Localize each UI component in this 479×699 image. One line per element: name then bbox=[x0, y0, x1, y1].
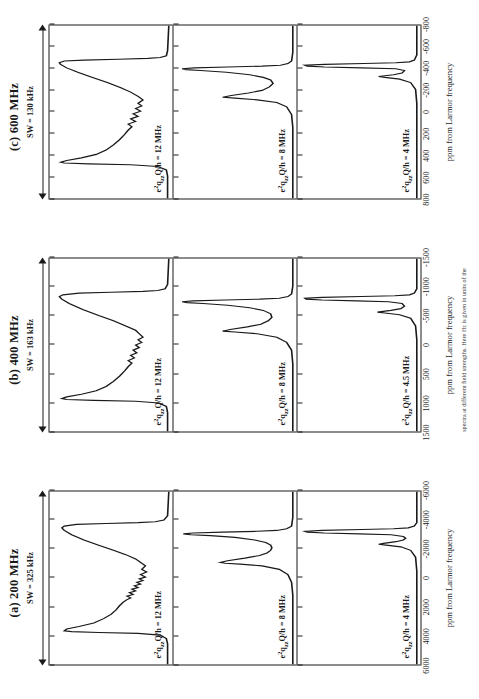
cq-rest: Q/h = 8 MHz bbox=[277, 362, 286, 408]
axis-tick-label: 600 bbox=[421, 171, 430, 183]
panel-b-sw-arrow bbox=[38, 257, 47, 432]
figure-rotation-wrapper: (a) 200 MHz SW = 325 kHz bbox=[0, 0, 479, 699]
panel-b-sub-12mhz: e2qzzQ/h = 12 MHz bbox=[48, 257, 172, 432]
panel-b-title: (b) 400 MHz bbox=[6, 233, 21, 466]
axis-tick bbox=[297, 23, 302, 24]
panel-c-sub1-cq-label: e2qzzQ/h = 12 MHz bbox=[151, 125, 164, 193]
cq-e: e bbox=[401, 654, 410, 658]
panel-b-axis-title: ppm from Larmor frequency bbox=[443, 257, 453, 432]
nmr-figure: (a) 200 MHz SW = 325 kHz bbox=[0, 0, 479, 699]
cq-e: e bbox=[153, 654, 162, 658]
cq-e: e bbox=[277, 654, 286, 658]
axis-tick-label: -4000 bbox=[421, 510, 430, 529]
panel-b-sub2-cq-label: e2qzzQ/h = 8 MHz bbox=[275, 362, 288, 425]
panel-b-sub3-cq-label: e2qzzQ/h = 4.5 MHz bbox=[399, 355, 412, 425]
cq-sub: zz bbox=[405, 408, 412, 414]
panel-a-sw-label: SW = 325 kHz bbox=[24, 490, 34, 665]
axis-tick-label: 1000 bbox=[421, 395, 430, 411]
panel-a-axis-title: ppm from Larmor frequency bbox=[443, 490, 453, 665]
panel-c-sw-label: SW = 130 kHz bbox=[24, 24, 34, 199]
panel-b-axis: 150010005000-500-1000-1500 bbox=[421, 257, 439, 432]
cq-sub: zz bbox=[281, 641, 288, 647]
panel-a-sweep-width: SW = 325 kHz bbox=[26, 490, 46, 665]
axis-tick bbox=[297, 489, 302, 490]
cq-sub: zz bbox=[405, 175, 412, 181]
axis-tick-label: -800 bbox=[421, 16, 430, 31]
axis-tick bbox=[173, 23, 178, 24]
axis-tick-label: 200 bbox=[421, 127, 430, 139]
axis-tick bbox=[49, 23, 54, 24]
axis-tick-label: 0 bbox=[421, 342, 430, 346]
cq-rest: Q/h = 12 MHz bbox=[153, 591, 162, 642]
panel-b-sub-8mhz: e2qzzQ/h = 8 MHz bbox=[172, 257, 296, 432]
cq-rest: Q/h = 12 MHz bbox=[153, 358, 162, 409]
panel-c-sub3-cq-label: e2qzzQ/h = 4 MHz bbox=[399, 129, 412, 192]
cq-rest: Q/h = 4 MHz bbox=[401, 129, 410, 175]
cq-sub: zz bbox=[157, 641, 164, 647]
cq-e: e bbox=[277, 188, 286, 192]
panel-a-sub-8mhz: e2qzzQ/h = 8 MHz bbox=[172, 490, 296, 665]
cq-e: e bbox=[401, 188, 410, 192]
axis-tick-label: 1500 bbox=[421, 424, 430, 440]
axis-tick-label: -400 bbox=[421, 60, 430, 75]
cq-sub: zz bbox=[157, 408, 164, 414]
panel-c-sweep-width: SW = 130 kHz bbox=[26, 24, 46, 199]
panel-a-axis: 6000400020000-2000-4000-6000 bbox=[421, 490, 439, 665]
axis-tick-label: -200 bbox=[421, 82, 430, 97]
axis-tick-label: 400 bbox=[421, 149, 430, 161]
panel-a-sub1-cq-label: e2qzzQ/h = 12 MHz bbox=[151, 591, 164, 659]
panel-a-sub2-cq-label: e2qzzQ/h = 8 MHz bbox=[275, 595, 288, 658]
panel-b-sweep-width: SW = 163 kHz bbox=[26, 257, 46, 432]
axis-tick-label: 6000 bbox=[421, 657, 430, 673]
axis-tick-label: -500 bbox=[421, 308, 430, 323]
panel-a-sub-4mhz: e2qzzQ/h = 4 MHz bbox=[296, 490, 421, 665]
panel-b-sub-45mhz: e2qzzQ/h = 4.5 MHz bbox=[296, 257, 421, 432]
panel-c-sub-4mhz: e2qzzQ/h = 4 MHz bbox=[296, 24, 421, 199]
panel-b-sub1-cq-label: e2qzzQ/h = 12 MHz bbox=[151, 358, 164, 426]
panel-a-sw-arrow bbox=[38, 490, 47, 665]
panel-row: (a) 200 MHz SW = 325 kHz bbox=[0, 0, 455, 699]
cq-e: e bbox=[401, 421, 410, 425]
panel-b-stack: e2qzzQ/h = 12 MHz e2qzzQ/h = 8 MHz bbox=[48, 257, 421, 432]
cq-e: e bbox=[153, 188, 162, 192]
panel-c-stack: e2qzzQ/h = 12 MHz e2qzzQ/h = 8 MHz bbox=[48, 24, 421, 199]
axis-tick bbox=[173, 489, 178, 490]
axis-tick-label: -1000 bbox=[421, 277, 430, 296]
cq-e: e bbox=[153, 421, 162, 425]
panel-c-axis-title: ppm from Larmor frequency bbox=[443, 24, 453, 199]
panel-c-axis: 8006004002000-200-400-600-800 bbox=[421, 24, 439, 199]
axis-tick bbox=[49, 256, 54, 257]
axis-tick bbox=[297, 256, 302, 257]
axis-tick-label: 2000 bbox=[421, 598, 430, 614]
panel-a-title: (a) 200 MHz bbox=[6, 466, 21, 699]
axis-tick-label: 500 bbox=[421, 368, 430, 380]
cq-rest: Q/h = 8 MHz bbox=[277, 595, 286, 641]
cq-sub: zz bbox=[157, 175, 164, 181]
panel-c-sub2-cq-label: e2qzzQ/h = 8 MHz bbox=[275, 129, 288, 192]
cq-rest: Q/h = 8 MHz bbox=[277, 129, 286, 175]
axis-tick bbox=[49, 489, 54, 490]
axis-tick-label: 800 bbox=[421, 193, 430, 205]
axis-tick-label: 0 bbox=[421, 575, 430, 579]
cq-sub: zz bbox=[281, 408, 288, 414]
axis-tick-label: 4000 bbox=[421, 628, 430, 644]
axis-tick-label: -2000 bbox=[421, 539, 430, 558]
cq-rest: Q/h = 12 MHz bbox=[153, 125, 162, 176]
panel-a-stack: e2qzzQ/h = 12 MHz e2qzzQ/h = 8 MHz bbox=[48, 490, 421, 665]
panel-c-sub-12mhz: e2qzzQ/h = 12 MHz bbox=[48, 24, 172, 199]
axis-tick-label: -1500 bbox=[421, 247, 430, 266]
axis-tick-label: 0 bbox=[421, 109, 430, 113]
axis-tick-label: -6000 bbox=[421, 480, 430, 499]
cq-rest: Q/h = 4 MHz bbox=[401, 595, 410, 641]
panel-b: (b) 400 MHz SW = 163 kHz bbox=[0, 233, 455, 466]
panel-a-sub3-cq-label: e2qzzQ/h = 4 MHz bbox=[399, 595, 412, 658]
cq-rest: Q/h = 4.5 MHz bbox=[401, 355, 410, 408]
panel-b-sw-label: SW = 163 kHz bbox=[24, 257, 34, 432]
cq-sub: zz bbox=[405, 641, 412, 647]
panel-a: (a) 200 MHz SW = 325 kHz bbox=[0, 466, 455, 699]
figure-caption: spectra at different field strengths. He… bbox=[459, 0, 479, 699]
cq-sub: zz bbox=[281, 175, 288, 181]
panel-a-sub-12mhz: e2qzzQ/h = 12 MHz bbox=[48, 490, 172, 665]
panel-c-title: (c) 600 MHz bbox=[6, 0, 21, 233]
panel-c-sub-8mhz: e2qzzQ/h = 8 MHz bbox=[172, 24, 296, 199]
